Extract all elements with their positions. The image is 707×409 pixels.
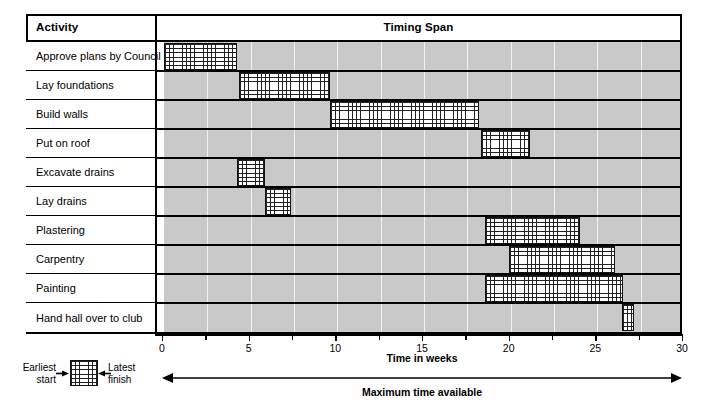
double-headed-arrow-icon <box>162 372 682 384</box>
legend-earliest-line1: Earliest <box>23 362 56 373</box>
task-bar <box>509 246 615 273</box>
activity-label-text: Lay drains <box>36 195 87 207</box>
legend-latest-finish-label: Latest finish <box>108 362 156 385</box>
task-bar <box>239 72 331 99</box>
activity-label-row: Put on roof <box>26 129 155 158</box>
activity-label-row: Hand hall over to club <box>26 303 155 332</box>
maximum-time-label: Maximum time available <box>162 386 682 398</box>
axis-tick-major <box>682 334 683 341</box>
activity-label-text: Lay foundations <box>36 79 114 91</box>
time-axis: 051015202530 <box>162 334 682 335</box>
activity-label-text: Excavate drains <box>36 166 114 178</box>
legend-latest-line1: Latest <box>108 362 135 373</box>
chart-row-separator <box>157 215 680 217</box>
task-bar <box>265 188 291 215</box>
column-header-timing-span: Timing Span <box>155 14 680 40</box>
chart-row-separator <box>157 302 680 304</box>
activity-label-text: Put on roof <box>36 137 90 149</box>
activity-label-text: Carpentry <box>36 253 84 265</box>
axis-tick-minor <box>292 334 293 340</box>
legend-left-arrow-icon <box>56 370 69 377</box>
legend-earliest-start-label: Earliest start <box>8 362 56 385</box>
activity-label-row: Lay foundations <box>26 71 155 100</box>
activity-label-text: Painting <box>36 282 76 294</box>
table-header-row: Activity Timing Span <box>26 14 682 42</box>
legend-latest-line2: finish <box>108 374 131 385</box>
activity-label-text: Approve plans by Council <box>36 50 161 62</box>
activity-label-row: Lay drains <box>26 187 155 216</box>
task-bar <box>485 275 624 302</box>
activity-label-text: Hand hall over to club <box>36 312 142 324</box>
axis-tick-minor <box>205 334 206 340</box>
activity-label-row: Build walls <box>26 100 155 129</box>
task-bar <box>481 130 530 157</box>
column-header-activity: Activity <box>26 14 155 40</box>
axis-line <box>155 334 682 336</box>
axis-tick-major <box>595 334 596 341</box>
axis-tick-major <box>509 334 510 341</box>
activity-label-row: Carpentry <box>26 245 155 274</box>
task-bar <box>622 304 634 331</box>
chart-row-separator <box>157 70 680 72</box>
activity-label-column: Approve plans by CouncilLay foundationsB… <box>26 42 155 332</box>
legend-task-bar-swatch <box>70 360 98 386</box>
activity-label-row: Approve plans by Council <box>26 42 155 71</box>
legend-earliest-line2: start <box>37 374 56 385</box>
chart-row-separator <box>157 128 680 130</box>
activity-label-text: Build walls <box>36 108 88 120</box>
maximum-time-indicator: Maximum time available <box>162 372 682 402</box>
gantt-chart: Activity Timing Span Approve plans by Co… <box>26 14 682 334</box>
chart-row-separator <box>157 186 680 188</box>
axis-tick-minor <box>552 334 553 340</box>
axis-tick-major <box>162 334 163 341</box>
axis-tick-major <box>335 334 336 341</box>
chart-row-separator <box>157 157 680 159</box>
axis-tick-minor <box>379 334 380 340</box>
axis-tick-minor <box>639 334 640 340</box>
timing-span-plot <box>155 42 680 332</box>
activity-label-row: Painting <box>26 274 155 303</box>
axis-title: Time in weeks <box>162 352 682 364</box>
axis-tick-major <box>422 334 423 341</box>
legend: Earliest start Latest finish <box>8 358 158 402</box>
task-bar <box>485 217 580 244</box>
axis-tick-minor <box>465 334 466 340</box>
task-bar <box>164 43 237 70</box>
activity-label-text: Plastering <box>36 224 85 236</box>
task-bar <box>237 159 265 186</box>
activity-label-row: Excavate drains <box>26 158 155 187</box>
task-bar <box>330 101 479 128</box>
axis-tick-major <box>249 334 250 341</box>
activity-label-row: Plastering <box>26 216 155 245</box>
